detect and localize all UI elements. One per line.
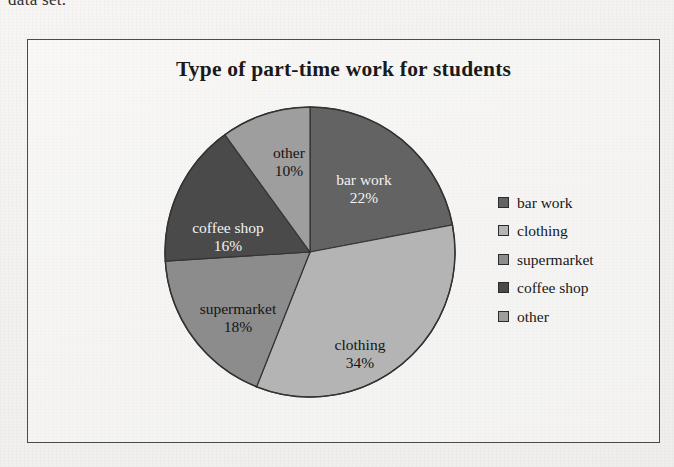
chart-legend: bar workclothingsupermarketcoffee shopot… — [498, 188, 648, 331]
legend-item-label: other — [517, 309, 549, 325]
legend-swatch-icon — [498, 197, 509, 208]
pie-slice-group — [165, 107, 455, 397]
legend-item-label: bar work — [517, 195, 573, 211]
legend-item-bar-work[interactable]: bar work — [498, 188, 648, 217]
pie-svg: bar work22%clothing34%supermarket18%coff… — [164, 106, 456, 398]
legend-swatch-icon — [498, 254, 509, 265]
page-text-fragment: data set. — [8, 0, 66, 12]
chart-frame: Type of part-time work for students bar … — [27, 39, 660, 443]
chart-title: Type of part-time work for students — [28, 57, 659, 82]
legend-item-label: clothing — [517, 223, 568, 239]
legend-item-clothing[interactable]: clothing — [498, 217, 648, 246]
legend-item-supermarket[interactable]: supermarket — [498, 245, 648, 274]
legend-item-label: supermarket — [517, 252, 594, 268]
legend-item-label: coffee shop — [517, 280, 589, 296]
pie-slice-label-other: other10% — [273, 144, 306, 179]
legend-swatch-icon — [498, 311, 509, 322]
legend-item-coffee-shop[interactable]: coffee shop — [498, 274, 648, 303]
legend-item-other[interactable]: other — [498, 302, 648, 331]
legend-swatch-icon — [498, 282, 509, 293]
pie-chart: bar work22%clothing34%supermarket18%coff… — [164, 106, 456, 398]
legend-swatch-icon — [498, 225, 509, 236]
